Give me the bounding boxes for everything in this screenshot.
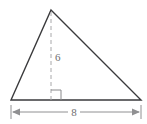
dimension-left-arrowhead [12, 109, 20, 116]
right-angle-marker [51, 90, 61, 100]
triangle-diagram-svg: 6 8 [0, 0, 147, 124]
dimension-right-arrowhead [132, 109, 140, 116]
base-label: 8 [71, 106, 77, 118]
geometry-figure: 6 8 [0, 0, 147, 124]
triangle-outline [11, 10, 141, 100]
altitude-label: 6 [55, 51, 61, 63]
